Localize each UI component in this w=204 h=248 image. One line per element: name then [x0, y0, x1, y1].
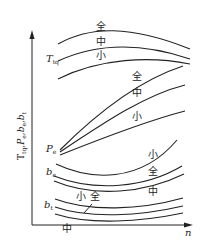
curve-p-e-0 [60, 66, 183, 150]
x-axis-label: n [185, 227, 191, 238]
curve-b-e-2 [54, 174, 184, 191]
curve-label: 小 [148, 149, 158, 160]
curve-label: 中 [96, 35, 106, 47]
curve-label: 小 [76, 191, 86, 202]
curve-label: 小 [132, 111, 142, 122]
curve-label: 全 [90, 190, 100, 202]
curve-t-tq-0 [58, 31, 190, 49]
svg-text:Ttq,Pe,be,bt: Ttq,Pe,be,bt [16, 111, 28, 160]
series-group-label-p-e: Pe [45, 143, 57, 155]
y-axis-label: Ttq,Pe,be,bt [16, 111, 28, 160]
curve-label: 全 [148, 165, 158, 177]
engine-characteristic-chart: n Ttq,Pe,be,bt Ttq全中小Pe全中小be小全中bt小全中 [0, 0, 204, 248]
leader-line [84, 204, 92, 213]
curve-t-tq-2 [58, 60, 190, 79]
chart-svg: n Ttq,Pe,be,bt Ttq全中小Pe全中小be小全中bt小全中 [0, 0, 204, 248]
series-group-label-t-tq: Ttq [46, 53, 59, 66]
curve-b-e-0 [56, 140, 177, 175]
curve-label: 中 [132, 86, 142, 98]
curve-p-e-1 [60, 85, 185, 152]
labels-group: Ttq全中小Pe全中小be小全中bt小全中 [44, 20, 158, 234]
curve-label: 中 [62, 222, 72, 234]
curve-t-tq-1 [58, 47, 190, 61]
curve-p-e-2 [60, 111, 185, 155]
curves-group [54, 31, 190, 221]
curve-label: 全 [96, 20, 106, 32]
curve-label: 全 [132, 70, 142, 82]
series-group-label-b-t: bt [44, 199, 53, 211]
y-axis-arrow-icon [30, 30, 35, 39]
curve-label: 小 [96, 50, 106, 61]
series-group-label-b-e: be [46, 166, 56, 178]
curve-b-t-0 [55, 198, 183, 208]
curve-label: 中 [148, 185, 158, 197]
